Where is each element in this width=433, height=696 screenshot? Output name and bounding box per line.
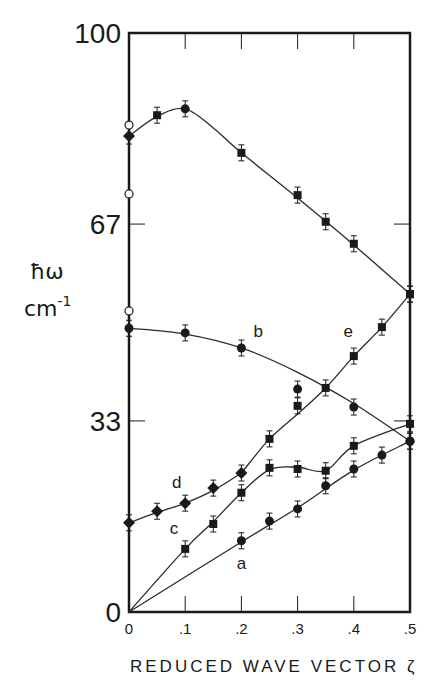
data-point-upper	[350, 240, 358, 248]
x-tick-label: 0	[125, 620, 133, 637]
data-point-c	[350, 442, 358, 450]
data-point-upper	[294, 191, 302, 199]
y-tick-label: 33	[90, 406, 121, 437]
data-point-upper	[153, 111, 161, 119]
data-point-e	[294, 402, 302, 410]
branch-label-d: d	[172, 473, 181, 492]
data-point-upper	[123, 130, 135, 142]
x-tick-label: .4	[348, 620, 361, 637]
data-point-upper	[181, 104, 190, 113]
data-point-e	[350, 352, 358, 360]
branch-label-a: a	[237, 554, 247, 573]
data-point-c	[406, 420, 414, 428]
y-tick-label: 67	[90, 209, 121, 240]
y-axis-label: ħω	[30, 259, 64, 284]
data-point-c	[237, 489, 245, 497]
data-point-a	[237, 536, 246, 545]
data-point-d	[151, 505, 163, 517]
data-point-c	[209, 520, 217, 528]
data-point-c	[266, 464, 274, 472]
curve-b	[129, 328, 410, 441]
x-tick-label: .1	[179, 620, 192, 637]
y-tick-label: 100	[74, 18, 121, 49]
x-tick-label: .2	[235, 620, 248, 637]
open-circle-point	[125, 307, 133, 315]
open-circle-point	[125, 121, 133, 129]
data-points	[123, 101, 415, 557]
x-tick-label: .5	[404, 620, 417, 637]
data-point-d	[123, 517, 135, 529]
data-point-a	[377, 451, 386, 460]
data-point-c	[181, 545, 189, 553]
x-tick-label: .3	[291, 620, 304, 637]
data-point-a	[349, 464, 358, 473]
curve-upper	[129, 108, 410, 294]
open-circle-point	[125, 190, 133, 198]
x-axis-label: REDUCED WAVE VECTOR ζ	[130, 657, 417, 676]
y-axis-unit: cm-1	[24, 293, 72, 321]
branch-label-e: e	[343, 322, 352, 341]
data-point-b	[125, 324, 134, 333]
data-point-e	[378, 323, 386, 331]
y-tick-label: 0	[105, 597, 121, 628]
data-point-a	[406, 437, 415, 446]
data-point-b	[181, 328, 190, 337]
data-point-upper	[237, 149, 245, 157]
phonon-dispersion-chart: 03367100 0.1.2.3.4.5 abcde REDUCED WAVE …	[0, 0, 433, 696]
data-point-d	[235, 467, 247, 479]
chart-canvas: 03367100 0.1.2.3.4.5 abcde REDUCED WAVE …	[0, 0, 433, 696]
data-point-e	[322, 384, 330, 392]
data-point-a	[265, 517, 274, 526]
data-point-c	[322, 467, 330, 475]
x-axis-ticks: 0.1.2.3.4.5	[125, 33, 416, 637]
branch-label-b: b	[254, 322, 263, 341]
data-point-d	[179, 497, 191, 509]
data-point-a	[293, 504, 302, 513]
data-point-b	[293, 385, 302, 394]
data-point-a	[321, 481, 330, 490]
data-point-b	[237, 343, 246, 352]
data-point-c	[294, 465, 302, 473]
data-point-b	[349, 403, 358, 412]
data-point-e	[266, 435, 274, 443]
data-point-upper	[322, 218, 330, 226]
branch-label-c: c	[170, 519, 179, 538]
data-point-e	[406, 290, 414, 298]
